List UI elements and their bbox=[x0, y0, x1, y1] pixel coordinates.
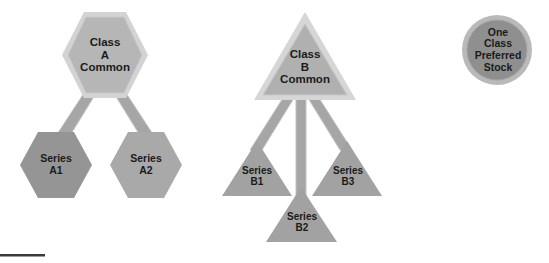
edge-class-b-to-series-b2 bbox=[296, 98, 306, 200]
node-series-a2[interactable] bbox=[110, 132, 182, 198]
diagram-canvas: Class A Common Series A1 Series A2 Class… bbox=[0, 0, 549, 263]
footer-rule bbox=[0, 254, 45, 257]
node-series-b3[interactable] bbox=[312, 141, 382, 196]
node-class-b-common[interactable] bbox=[254, 12, 356, 100]
edge-class-b-to-series-b3 bbox=[308, 98, 352, 150]
node-series-b1[interactable] bbox=[222, 141, 292, 196]
node-class-a-common[interactable] bbox=[62, 12, 148, 98]
node-series-a1[interactable] bbox=[20, 132, 92, 198]
node-preferred-stock[interactable] bbox=[462, 15, 532, 85]
diagram-shapes bbox=[0, 0, 549, 263]
